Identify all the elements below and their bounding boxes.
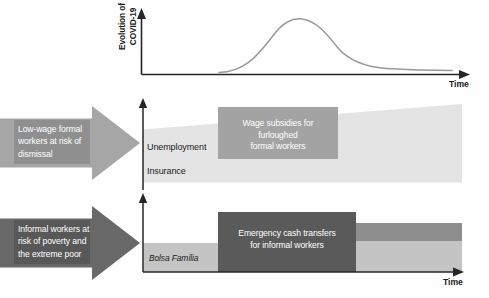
diagram-canvas: Evolution of COVID-19 Time Low-wage form… <box>0 0 489 298</box>
formal-arrow-label: Low-wage formal workers at risk of dismi… <box>18 123 92 160</box>
epi-chart-group <box>137 8 470 79</box>
epi-x-axis-arrowhead <box>459 70 470 79</box>
bolsa-familia-band-right <box>356 241 462 272</box>
epidemic-curve <box>219 19 452 73</box>
bolsa-familia-label: Bolsa Família <box>149 252 239 264</box>
informal-arrow-label: Informal workers at risk of poverty and … <box>18 223 92 260</box>
formal-y-axis-arrowhead <box>139 98 147 108</box>
informal-x-axis-label: Time <box>443 277 463 287</box>
epi-y-axis-label: Evolution of COVID-19 <box>117 0 138 64</box>
epi-x-axis-label: Time <box>449 79 469 89</box>
epi-y-axis-arrowhead <box>137 8 146 19</box>
wage-subsidies-label: Wage subsidies for furloughed formal wor… <box>222 118 334 153</box>
bolsa-familia-band-raised-top <box>356 223 462 241</box>
emergency-cash-transfers-label: Emergency cash transfers for informal wo… <box>222 228 352 251</box>
informal-y-axis-arrowhead <box>139 193 147 203</box>
